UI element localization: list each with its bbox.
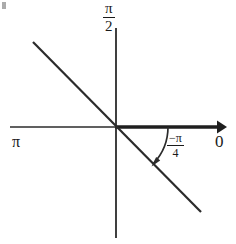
fraction-neg-pi-over-4: −π 4 <box>167 132 184 159</box>
fraction-numerator: π <box>103 1 115 18</box>
fraction-denominator: 4 <box>167 146 184 159</box>
x-axis-left-label: π <box>12 134 20 150</box>
diagram-canvas <box>0 0 236 244</box>
fraction-pi-over-2: π 2 <box>103 1 115 34</box>
angle-arc <box>154 127 168 163</box>
y-axis-top-label: π 2 <box>103 1 115 34</box>
x-axis-right-label: 0 <box>215 133 224 150</box>
fraction-denominator: 2 <box>103 18 115 34</box>
scan-artifact <box>2 2 6 9</box>
fraction-numerator: −π <box>167 132 184 146</box>
angle-diagram: π 2 π 0 −π 4 <box>0 0 236 244</box>
angle-label: −π 4 <box>167 132 184 159</box>
